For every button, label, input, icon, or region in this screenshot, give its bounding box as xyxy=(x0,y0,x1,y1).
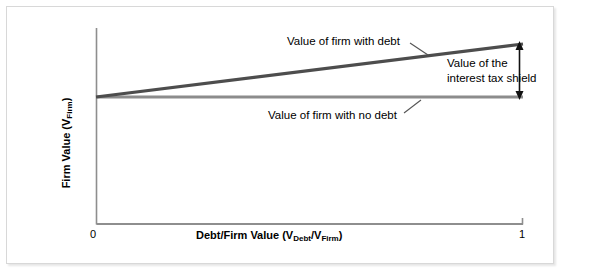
leader-line-no-debt xyxy=(404,100,421,113)
x-axis-label-subscript-firm: Firm xyxy=(321,234,338,243)
leader-line-with-debt xyxy=(410,43,428,55)
annotation-tax-shield-line1: Value of the xyxy=(447,56,537,71)
annotation-firm-no-debt: Value of firm with no debt xyxy=(268,108,397,123)
annotation-tax-shield: Value of the interest tax shield xyxy=(447,56,537,86)
x-axis-label-subscript-debt: Debt xyxy=(293,234,311,243)
x-tick-label-zero: 0 xyxy=(90,228,96,240)
y-axis-label-end: ) xyxy=(60,98,72,102)
figure-container: Firm Value (VFirm) Debt/Firm Value (VDeb… xyxy=(0,0,603,280)
y-axis-label-wrapper: Firm Value (VFirm) xyxy=(58,78,76,208)
x-axis-label-part1: Debt/Firm Value (V xyxy=(196,229,293,241)
x-axis-label: Debt/Firm Value (VDebt/VFirm) xyxy=(196,229,342,243)
x-axis-label-end: ) xyxy=(339,229,343,241)
y-axis-label: Firm Value (VFirm) xyxy=(60,98,74,189)
x-axis-label-part2: /V xyxy=(311,229,321,241)
annotation-tax-shield-line2: interest tax shield xyxy=(447,71,537,86)
y-axis-label-subscript: Firm xyxy=(65,101,74,118)
y-axis-label-main: Firm Value (V xyxy=(60,119,72,189)
x-tick-label-one: 1 xyxy=(519,228,525,240)
annotation-firm-with-debt: Value of firm with debt xyxy=(287,34,400,49)
